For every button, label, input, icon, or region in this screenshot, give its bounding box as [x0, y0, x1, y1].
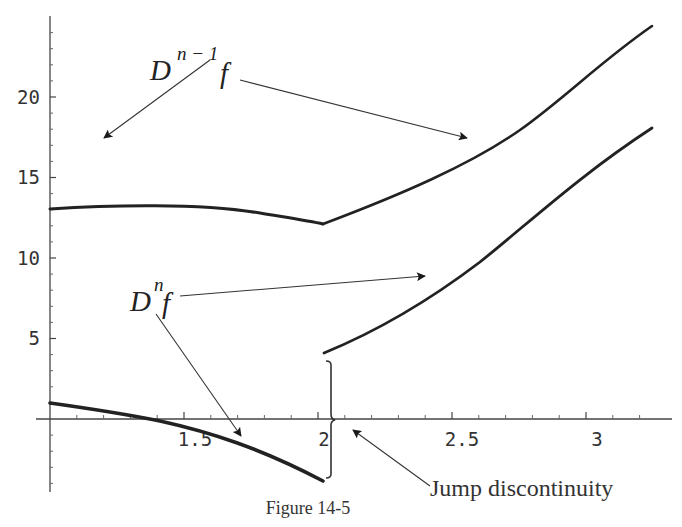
label-upper-derivative: D n − 1 f: [149, 43, 232, 89]
upper-curve-left: [50, 206, 323, 224]
arrow-lower-left: [156, 314, 241, 436]
label-upper-D: D: [149, 54, 171, 86]
figure-root: 20 15 10 5 1.5 2 2.5 3: [0, 0, 682, 527]
arrow-lower-right: [180, 276, 425, 296]
y-tick-5: 5: [29, 327, 40, 349]
x-tick-labels: 1.5 2 2.5 3: [178, 428, 603, 450]
label-lower-derivative: D n f: [129, 274, 174, 319]
label-upper-exponent: n − 1: [177, 43, 218, 64]
y-tick-labels: 20 15 10 5: [17, 86, 40, 349]
plot-curves: [50, 26, 652, 481]
x-tick-2.5: 2.5: [445, 428, 479, 450]
label-upper-f: f: [220, 57, 232, 89]
y-axis: [50, 16, 56, 492]
y-tick-15: 15: [17, 166, 40, 188]
label-lower-f: f: [162, 287, 174, 319]
x-tick-3: 3: [591, 428, 602, 450]
y-tick-10: 10: [17, 247, 40, 269]
lower-curve-right: [324, 128, 652, 353]
upper-curve-right: [323, 26, 652, 224]
x-tick-2: 2: [318, 428, 329, 450]
jump-discontinuity-label: Jump discontinuity: [430, 475, 613, 501]
chart-svg: 20 15 10 5 1.5 2 2.5 3: [0, 0, 682, 527]
arrow-jump: [353, 430, 430, 486]
label-lower-D: D: [129, 285, 151, 317]
y-tick-20: 20: [17, 86, 40, 108]
arrow-upper-right: [240, 80, 467, 138]
figure-caption: Figure 14-5: [266, 498, 351, 518]
